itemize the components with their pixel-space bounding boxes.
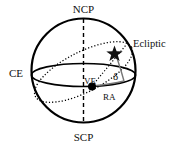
ecliptic-label: Ecliptic xyxy=(133,38,166,49)
scp-label: SCP xyxy=(74,131,94,143)
declination-label: δ xyxy=(113,70,118,82)
ve-label: VE xyxy=(84,76,96,86)
ncp-label: NCP xyxy=(73,3,94,15)
celestial-sphere-diagram: NCP SCP CE Ecliptic VE δ RA xyxy=(0,0,179,148)
ce-label: CE xyxy=(9,67,23,79)
ra-label: RA xyxy=(103,92,116,102)
